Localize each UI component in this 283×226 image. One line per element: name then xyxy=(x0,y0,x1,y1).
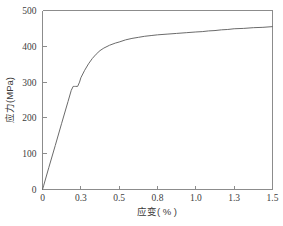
x-tick-label: 0 xyxy=(40,193,45,203)
y-tick-label: 100 xyxy=(22,149,37,159)
x-tick-label: 1.5 xyxy=(267,193,279,203)
chart-canvas: 00.30.50.81.01.31.5 0100200300400500 应变(… xyxy=(0,0,283,226)
y-tick-label: 500 xyxy=(22,6,37,16)
y-tick-label: 200 xyxy=(22,113,37,123)
x-tick-label: 0.5 xyxy=(113,193,125,203)
stress-strain-chart: 00.30.50.81.01.31.5 0100200300400500 应变(… xyxy=(0,0,283,226)
x-tick-label: 0.3 xyxy=(75,193,87,203)
x-tick-label: 1.3 xyxy=(228,193,240,203)
y-tick-label: 300 xyxy=(22,78,37,88)
x-axis-title: 应变( % ) xyxy=(137,206,177,217)
y-tick-label: 0 xyxy=(32,185,37,195)
x-tick-label: 1.0 xyxy=(190,193,202,203)
y-tick-label: 400 xyxy=(22,42,37,52)
x-tick-label: 0.8 xyxy=(152,193,164,203)
y-axis-title: 应力(MPa) xyxy=(4,77,15,123)
